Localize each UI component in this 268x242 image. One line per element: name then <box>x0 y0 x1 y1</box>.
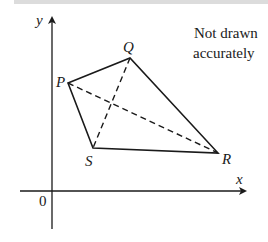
vertex-label-q: Q <box>123 39 134 55</box>
quadrilateral-diagram: y x 0 P Q R S Not drawn accurately <box>0 0 268 242</box>
x-axis-label: x <box>235 171 243 187</box>
vertex-label-r: R <box>221 151 231 167</box>
quadrilateral-pqrs <box>68 58 218 153</box>
note-line-2: accurately <box>193 45 255 61</box>
note-line-1: Not drawn <box>194 25 258 41</box>
y-axis-label: y <box>34 12 43 28</box>
vertex-label-p: P <box>55 74 65 90</box>
vertex-label-s: S <box>85 153 93 169</box>
origin-label: 0 <box>39 193 47 209</box>
